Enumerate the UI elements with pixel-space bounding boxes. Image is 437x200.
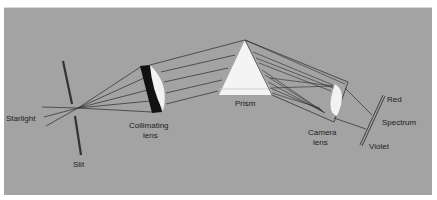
collimating-lens-label-line2: lens	[143, 131, 158, 140]
spectrograph-diagram	[0, 0, 437, 200]
red-label: Red	[387, 95, 402, 104]
diverging-rays	[78, 66, 152, 112]
starlight-label: Starlight	[6, 114, 35, 123]
prism-label: Prism	[235, 99, 255, 108]
starlight-rays	[42, 107, 78, 126]
camera-lens-label-line1: Camera	[308, 128, 336, 137]
slit-label: Slit	[73, 160, 84, 169]
violet-label: Violet	[369, 142, 389, 151]
spectrum-label: Spectrum	[382, 118, 416, 127]
camera-lens-label-line2: lens	[313, 138, 328, 147]
collimating-lens-label-line1: Collimating	[129, 121, 169, 130]
camera-lens	[330, 84, 342, 116]
